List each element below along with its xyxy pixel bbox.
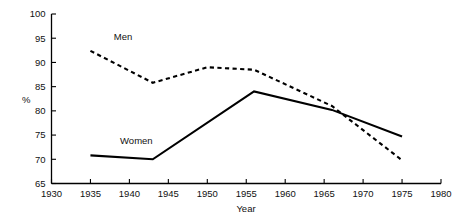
x-tick-label-1980: 1980: [430, 188, 451, 199]
y-tick-label-70: 70: [35, 154, 46, 165]
x-tick-label-1940: 1940: [119, 188, 140, 199]
y-tick-label-90: 90: [35, 57, 46, 68]
x-axis-title: Year: [236, 203, 255, 214]
x-tick-label-1960: 1960: [275, 188, 296, 199]
y-tick-label-95: 95: [35, 33, 46, 44]
series-label-women: Women: [120, 135, 153, 146]
series-label-men: Men: [114, 31, 132, 42]
y-tick-label-85: 85: [35, 81, 46, 92]
x-tick-label-1950: 1950: [197, 188, 218, 199]
chart-canvas: 65707580859095100 1930193519401945195019…: [0, 0, 463, 222]
x-tick-label-1945: 1945: [158, 188, 179, 199]
x-tick-label-1955: 1955: [236, 188, 257, 199]
y-tick-label-100: 100: [30, 8, 46, 19]
x-tick-label-1965: 1965: [314, 188, 335, 199]
x-tick-label-1970: 1970: [353, 188, 374, 199]
line-chart: 65707580859095100 1930193519401945195019…: [0, 0, 463, 222]
y-tick-label-80: 80: [35, 105, 46, 116]
y-tick-label-75: 75: [35, 129, 46, 140]
x-tick-label-1935: 1935: [80, 188, 101, 199]
x-tick-label-1930: 1930: [41, 188, 62, 199]
y-axis-title: %: [22, 94, 31, 105]
x-tick-label-1975: 1975: [391, 188, 412, 199]
